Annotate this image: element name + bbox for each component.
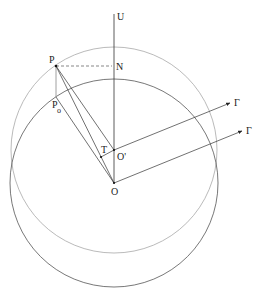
point-p [55,65,58,68]
label-o: O [111,186,118,197]
line-p-o-prime [56,66,114,150]
label-t: T [101,144,107,155]
point-o [113,182,115,184]
geometry-diagram: U P N P o T O' O Γ Γ [0,0,262,298]
line-p0-o [56,97,114,183]
label-o-prime: O' [117,151,126,162]
arrow-gamma-from-o [114,131,242,183]
label-gamma-2: Γ [246,125,252,136]
line-p-o [56,66,114,183]
point-t [100,156,102,158]
point-o-prime [113,149,115,151]
label-gamma-1: Γ [234,97,240,108]
label-p0-subscript: o [57,106,61,115]
label-u: U [117,11,125,22]
label-n: N [116,61,123,72]
label-p: P [49,54,55,65]
